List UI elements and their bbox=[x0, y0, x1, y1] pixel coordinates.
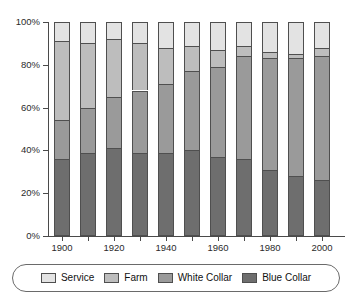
bar-segment-farm bbox=[262, 52, 278, 58]
legend-item-white-collar[interactable]: White Collar bbox=[158, 273, 232, 283]
bar-segment-blue-collar bbox=[314, 180, 330, 236]
bar-segment-farm bbox=[80, 43, 96, 107]
y-tick-label: 20% bbox=[21, 188, 40, 198]
bar-1920 bbox=[106, 22, 122, 236]
bar-segment-service bbox=[314, 22, 330, 48]
bar-segment-white-collar bbox=[288, 58, 304, 176]
bar-segment-white-collar bbox=[80, 108, 96, 153]
x-tick-1920 bbox=[114, 237, 115, 241]
y-tick-label: 0% bbox=[26, 231, 40, 241]
bar-segment-white-collar bbox=[184, 71, 200, 150]
bar-segment-farm bbox=[210, 50, 226, 67]
bar-segment-farm bbox=[184, 46, 200, 72]
x-tick-1960 bbox=[218, 237, 219, 241]
bar-segment-white-collar bbox=[262, 58, 278, 169]
bar-1900 bbox=[54, 22, 70, 236]
bar-segment-service bbox=[184, 22, 200, 46]
bar-1970 bbox=[236, 22, 252, 236]
legend-swatch-icon bbox=[158, 273, 173, 283]
y-tick-label: 60% bbox=[21, 103, 40, 113]
bar-segment-blue-collar bbox=[184, 150, 200, 236]
y-tick-label: 40% bbox=[21, 145, 40, 155]
bar-1950 bbox=[184, 22, 200, 236]
bar-segment-white-collar bbox=[54, 120, 70, 159]
bar-1960 bbox=[210, 22, 226, 236]
bar-segment-blue-collar bbox=[132, 153, 148, 236]
chart-legend: ServiceFarmWhite CollarBlue Collar bbox=[12, 264, 340, 292]
x-axis-line bbox=[48, 236, 345, 237]
bar-segment-service bbox=[262, 22, 278, 52]
bar-1930 bbox=[132, 22, 148, 236]
x-tick-1980 bbox=[270, 237, 271, 241]
x-tick-label-2000: 2000 bbox=[311, 243, 332, 253]
x-tick-1990 bbox=[296, 237, 297, 241]
x-tick-label-1940: 1940 bbox=[155, 243, 176, 253]
legend-item-farm[interactable]: Farm bbox=[104, 273, 147, 283]
bar-segment-blue-collar bbox=[158, 153, 174, 236]
bar-segment-white-collar bbox=[132, 91, 148, 153]
legend-label: Service bbox=[61, 273, 94, 283]
plot-area bbox=[48, 22, 344, 236]
x-tick-label-1960: 1960 bbox=[207, 243, 228, 253]
bar-segment-service bbox=[106, 22, 122, 39]
bar-1980 bbox=[262, 22, 278, 236]
bar-segment-white-collar bbox=[314, 56, 330, 180]
x-tick-1930 bbox=[140, 237, 141, 241]
bar-segment-blue-collar bbox=[236, 159, 252, 236]
bar-segment-farm bbox=[236, 46, 252, 57]
x-tick-1970 bbox=[244, 237, 245, 241]
bar-segment-service bbox=[288, 22, 304, 54]
bar-2000 bbox=[314, 22, 330, 236]
bar-segment-service bbox=[210, 22, 226, 50]
x-tick-1910 bbox=[88, 237, 89, 241]
bar-segment-farm bbox=[106, 39, 122, 97]
bar-segment-service bbox=[236, 22, 252, 46]
legend-label: Farm bbox=[124, 273, 147, 283]
legend-item-blue-collar[interactable]: Blue Collar bbox=[242, 273, 311, 283]
x-tick-1950 bbox=[192, 237, 193, 241]
x-tick-label-1920: 1920 bbox=[103, 243, 124, 253]
bar-segment-white-collar bbox=[106, 97, 122, 148]
legend-item-service[interactable]: Service bbox=[41, 273, 94, 283]
bar-segment-service bbox=[54, 22, 70, 41]
legend-label: Blue Collar bbox=[262, 273, 311, 283]
bar-segment-farm bbox=[288, 54, 304, 58]
bar-1910 bbox=[80, 22, 96, 236]
legend-label: White Collar bbox=[178, 273, 232, 283]
bar-1940 bbox=[158, 22, 174, 236]
bar-1990 bbox=[288, 22, 304, 236]
bar-segment-service bbox=[80, 22, 96, 43]
y-tick-label: 80% bbox=[21, 60, 40, 70]
bar-segment-blue-collar bbox=[262, 170, 278, 236]
bar-segment-service bbox=[158, 22, 174, 48]
bar-segment-blue-collar bbox=[288, 176, 304, 236]
x-tick-1900 bbox=[62, 237, 63, 241]
bar-segment-blue-collar bbox=[106, 148, 122, 236]
legend-swatch-icon bbox=[104, 273, 119, 283]
bar-segment-blue-collar bbox=[80, 153, 96, 236]
x-tick-1940 bbox=[166, 237, 167, 241]
bar-segment-white-collar bbox=[210, 67, 226, 157]
bar-segment-farm bbox=[314, 48, 330, 57]
chart-container: 0%20%40%60%80%100% 190019201940196019802… bbox=[0, 0, 352, 304]
x-tick-label-1900: 1900 bbox=[51, 243, 72, 253]
bar-segment-farm bbox=[132, 43, 148, 90]
y-tick-0 bbox=[43, 236, 48, 237]
x-tick-2000 bbox=[322, 237, 323, 241]
bar-segment-white-collar bbox=[236, 56, 252, 159]
bar-segment-farm bbox=[54, 41, 70, 120]
legend-swatch-icon bbox=[41, 273, 56, 283]
bar-segment-service bbox=[132, 22, 148, 43]
legend-swatch-icon bbox=[242, 273, 257, 283]
y-tick-label: 100% bbox=[16, 17, 40, 27]
bar-segment-blue-collar bbox=[54, 159, 70, 236]
bar-segment-farm bbox=[158, 48, 174, 84]
x-tick-label-1980: 1980 bbox=[259, 243, 280, 253]
bar-segment-white-collar bbox=[158, 84, 174, 152]
bar-segment-blue-collar bbox=[210, 157, 226, 236]
